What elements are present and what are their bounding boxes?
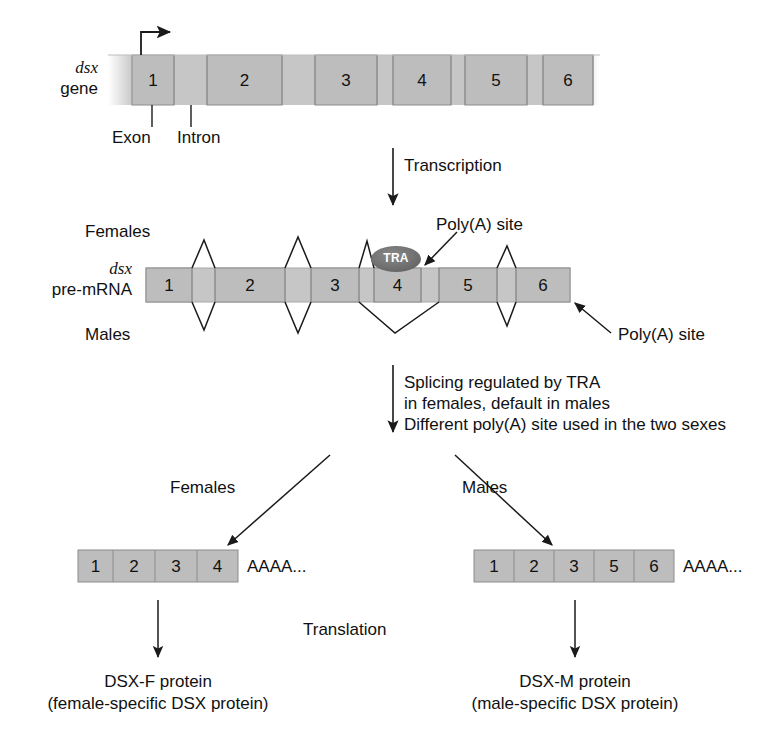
polya-site-female-label: Poly(A) site xyxy=(436,215,523,235)
female-mrna-exon-1: 1 xyxy=(78,558,113,575)
gene-exon-1: 1 xyxy=(132,72,174,89)
intron-annotation-label: Intron xyxy=(177,128,220,148)
male-mrna-exon-3: 3 xyxy=(554,558,594,575)
male-protein-line-2: (male-specific DSX protein) xyxy=(435,694,715,714)
premrna-males-label: Males xyxy=(85,325,130,345)
branch-female-label: Females xyxy=(170,478,235,498)
gene-annotation-leaders xyxy=(152,105,191,127)
female-protein-line-1: DSX-F protein xyxy=(18,672,298,692)
premrna-exon-2: 2 xyxy=(215,277,285,294)
male-mrna-exon-6: 6 xyxy=(634,558,674,575)
premrna-females-label: Females xyxy=(85,222,150,242)
gene-label-plain: gene xyxy=(18,79,98,99)
splicing-step-line-3: Different poly(A) site used in the two s… xyxy=(404,415,726,435)
female-mrna-exon-2: 2 xyxy=(113,558,155,575)
splicing-step-line-2: in females, default in males xyxy=(404,394,610,414)
dsx-splicing-diagram: dsx gene 1 2 3 4 5 6 Exon Intron Transcr… xyxy=(0,0,778,748)
gene-label-italic: dsx xyxy=(18,58,98,78)
tra-label: TRA xyxy=(371,252,421,264)
female-mrna-polya-tail: AAAA... xyxy=(247,557,307,577)
gene-exon-4: 4 xyxy=(393,72,451,89)
gene-exon-5: 5 xyxy=(465,72,527,89)
female-mrna-exon-3: 3 xyxy=(155,558,197,575)
polya-male-arrow xyxy=(575,303,611,333)
male-mrna-exon-1: 1 xyxy=(474,558,514,575)
female-protein-line-2: (female-specific DSX protein) xyxy=(18,694,298,714)
premrna-label-plain: pre-mRNA xyxy=(10,280,132,300)
male-mrna-exon-2: 2 xyxy=(514,558,554,575)
polya-site-male-label: Poly(A) site xyxy=(618,325,705,345)
premrna-exon-4: 4 xyxy=(374,277,421,294)
translation-label: Translation xyxy=(303,620,386,640)
male-splice-loop xyxy=(359,302,439,333)
male-mrna-polya-tail: AAAA... xyxy=(683,557,743,577)
branch-arrows xyxy=(228,455,552,545)
splicing-step-line-1: Splicing regulated by TRA xyxy=(404,373,600,393)
female-mrna-exon-4: 4 xyxy=(197,558,238,575)
gene-exon-2: 2 xyxy=(207,72,282,89)
male-mrna-exon-5: 5 xyxy=(594,558,634,575)
transcription-label: Transcription xyxy=(404,156,502,176)
transcription-start-arrow xyxy=(141,32,170,55)
gene-exon-3: 3 xyxy=(315,72,377,89)
polya-female-arrow xyxy=(425,232,457,265)
premrna-label-italic: dsx xyxy=(10,259,132,279)
premrna-exon-6: 6 xyxy=(516,277,570,294)
gene-exon-6: 6 xyxy=(543,72,593,89)
male-protein-line-1: DSX-M protein xyxy=(435,672,715,692)
premrna-exon-3: 3 xyxy=(311,277,359,294)
exon-annotation-label: Exon xyxy=(112,128,151,148)
branch-male-label: Males xyxy=(462,478,507,498)
premrna-exon-1: 1 xyxy=(146,277,192,294)
premrna-exon-5: 5 xyxy=(439,277,497,294)
diagram-vector-layer xyxy=(0,0,778,748)
